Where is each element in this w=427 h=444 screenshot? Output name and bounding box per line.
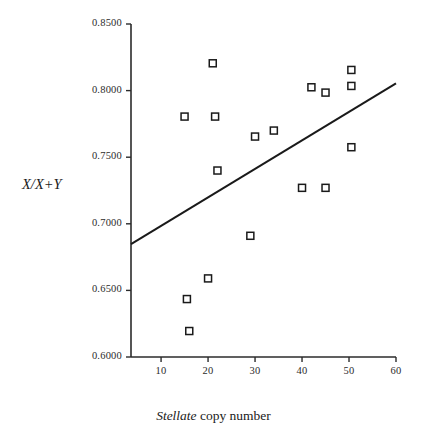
y-tick-label: 0.7500	[46, 150, 122, 161]
data-point-marker	[322, 89, 329, 96]
y-tick-label: 0.8500	[46, 17, 122, 28]
data-point-marker	[205, 275, 212, 282]
data-point-marker	[252, 133, 259, 140]
trend-line	[131, 83, 396, 244]
x-tick-label: 60	[371, 365, 421, 376]
data-point-marker	[348, 66, 355, 73]
data-point-marker	[348, 82, 355, 89]
x-axis-title: Stellate copy number	[0, 408, 427, 424]
x-axis-title-italic: Stellate	[156, 408, 197, 423]
data-point-marker	[270, 127, 277, 134]
y-tick-label: 0.7000	[46, 217, 122, 228]
x-tick-label: 20	[183, 365, 233, 376]
x-tick-label: 40	[277, 365, 327, 376]
y-tick-label: 0.6000	[46, 350, 122, 361]
data-point-marker	[209, 60, 216, 67]
y-axis-title: X/X+Y	[22, 176, 108, 193]
data-point-marker	[348, 144, 355, 151]
data-point-marker	[212, 113, 219, 120]
x-tick-label: 10	[136, 365, 186, 376]
data-point-marker	[181, 113, 188, 120]
data-point-marker	[299, 184, 306, 191]
data-point-marker	[308, 84, 315, 91]
x-tick-label: 30	[230, 365, 280, 376]
x-axis-title-rest: copy number	[200, 408, 271, 423]
x-tick-label: 50	[324, 365, 374, 376]
chart-figure: 0.60000.65000.70000.75000.80000.8500 102…	[0, 0, 427, 444]
data-point-marker	[247, 232, 254, 239]
data-point-marker	[322, 184, 329, 191]
y-tick-label: 0.6500	[46, 283, 122, 294]
regression-line	[131, 83, 396, 244]
y-tick-label: 0.8000	[46, 84, 122, 95]
data-point-marker	[183, 296, 190, 303]
axes	[131, 24, 396, 357]
data-point-marker	[186, 328, 193, 335]
data-point-marker	[214, 167, 221, 174]
